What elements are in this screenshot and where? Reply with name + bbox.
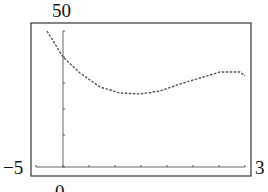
function-curve xyxy=(47,31,245,94)
plot-area xyxy=(0,0,268,192)
plot-frame xyxy=(31,23,251,176)
